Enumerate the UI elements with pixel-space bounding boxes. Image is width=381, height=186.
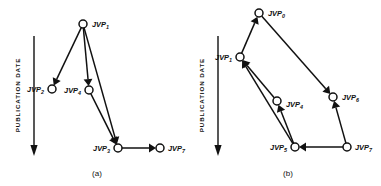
graph-node[interactable]: JVP4: [64, 86, 93, 96]
node-label: JVP3: [93, 144, 110, 154]
edge: [242, 17, 259, 54]
panel-b: PUBLICATION DATE JVP0JVP1JVP4JVP6JVP5JVP…: [198, 9, 373, 178]
node-label-subscript: 1: [106, 24, 109, 30]
node-label: JVP7: [168, 144, 186, 154]
edge: [243, 60, 275, 98]
edge-arrowhead: [332, 101, 340, 109]
node-label-subscript: 2: [40, 89, 44, 95]
axis-arrowhead-b: [214, 145, 221, 156]
panel-a: PUBLICATION DATE JVP1JVP2JVP4JVP3JVP7 (a…: [14, 20, 186, 178]
node-label: JVP4: [64, 86, 81, 96]
edge: [332, 101, 346, 143]
node-label: JVP4: [286, 100, 303, 110]
graph-node[interactable]: JVP4: [273, 97, 303, 110]
node-label: JVP5: [270, 143, 288, 153]
node-label-subscript: 1: [229, 57, 232, 63]
graph-node[interactable]: JVP6: [329, 93, 360, 103]
graph-node[interactable]: JVP2: [27, 85, 56, 95]
panel-caption-b: (b): [283, 169, 293, 178]
node-label: JVP0: [268, 9, 285, 19]
node-circle[interactable]: [291, 143, 299, 151]
edges-b: [242, 16, 346, 151]
edge: [83, 28, 92, 86]
node-label: JVP1: [215, 53, 232, 63]
node-circle[interactable]: [255, 9, 263, 17]
graph-node[interactable]: JVP7: [343, 143, 373, 153]
edge: [262, 16, 331, 94]
publication-date-axis-a: PUBLICATION DATE: [14, 36, 38, 156]
node-label-subscript: 7: [182, 148, 186, 154]
nodes-b: JVP0JVP1JVP4JVP6JVP5JVP7: [215, 9, 373, 153]
nodes-a: JVP1JVP2JVP4JVP3JVP7: [27, 20, 186, 154]
graph-node[interactable]: JVP5: [270, 143, 299, 153]
axis-label-a: PUBLICATION DATE: [14, 58, 21, 132]
graph-node[interactable]: JVP0: [255, 9, 285, 19]
node-label-subscript: 3: [107, 148, 110, 154]
panel-caption-a: (a): [92, 169, 102, 178]
node-circle[interactable]: [114, 144, 122, 152]
edge: [53, 28, 82, 86]
node-circle[interactable]: [79, 20, 87, 28]
node-circle[interactable]: [156, 144, 164, 152]
edge: [277, 105, 294, 144]
edge: [299, 143, 343, 152]
edge-arrowhead: [149, 144, 156, 153]
axis-arrowhead-a: [30, 145, 37, 156]
edge: [91, 94, 117, 145]
edge-arrowhead: [299, 143, 306, 152]
node-label: JVP7: [355, 143, 373, 153]
node-label-subscript: 5: [284, 147, 288, 153]
node-label: JVP6: [342, 93, 360, 103]
edge-arrowhead: [84, 79, 93, 86]
node-label-subscript: 4: [299, 104, 303, 110]
node-label: JVP1: [92, 20, 109, 30]
node-circle[interactable]: [85, 86, 93, 94]
graph-node[interactable]: JVP7: [156, 144, 186, 154]
node-label-subscript: 6: [356, 97, 360, 103]
edge: [122, 144, 156, 153]
node-circle[interactable]: [273, 97, 281, 105]
node-label-subscript: 0: [282, 13, 285, 19]
node-circle[interactable]: [329, 93, 337, 101]
node-label-subscript: 4: [77, 90, 81, 96]
node-circle[interactable]: [236, 53, 244, 61]
graph-node[interactable]: JVP1: [215, 53, 244, 63]
node-label: JVP2: [27, 85, 44, 95]
node-circle[interactable]: [343, 143, 351, 151]
citation-graph-figure: PUBLICATION DATE JVP1JVP2JVP4JVP3JVP7 (a…: [0, 0, 381, 186]
graph-node[interactable]: JVP3: [93, 144, 122, 154]
graph-node[interactable]: JVP1: [79, 20, 109, 30]
axis-label-b: PUBLICATION DATE: [198, 58, 205, 132]
node-circle[interactable]: [48, 85, 56, 93]
node-label-subscript: 7: [369, 147, 373, 153]
